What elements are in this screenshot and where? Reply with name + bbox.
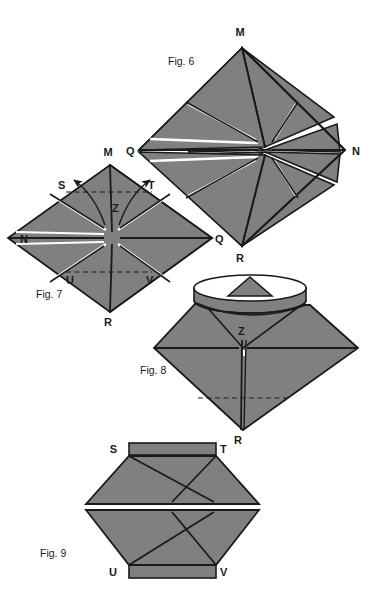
fig7-label-Z: Z <box>112 202 119 214</box>
fig8-crease-vertical <box>241 340 242 430</box>
figure-fig8: Fig. 8 Z R <box>140 275 358 446</box>
fig7-label-V: V <box>146 274 154 286</box>
fig9-label-S: S <box>110 443 117 455</box>
diagram-sheet: Fig. 6 M N Q R <box>0 0 374 604</box>
fig8-caption: Fig. 8 <box>140 364 166 376</box>
fig9-caption: Fig. 9 <box>40 547 66 559</box>
fig7-label-U: U <box>66 274 74 286</box>
fig6-caption: Fig. 6 <box>168 55 194 67</box>
fig6-label-M: M <box>235 26 244 38</box>
fig7-label-N: N <box>20 233 28 245</box>
fig7-label-T: T <box>148 179 155 191</box>
figure-fig9: Fig. 9 S T U V <box>40 443 259 578</box>
figures-svg: Fig. 6 M N Q R <box>0 0 374 604</box>
fig6-label-R: R <box>236 252 244 264</box>
fig8-label-R: R <box>234 434 242 446</box>
fig9-label-U: U <box>109 566 117 578</box>
fig9-label-T: T <box>220 443 227 455</box>
fig6-label-N: N <box>352 145 360 157</box>
fig7-caption: Fig. 7 <box>36 288 62 300</box>
fig9-label-V: V <box>220 566 228 578</box>
fig7-label-M: M <box>103 146 112 158</box>
fig9-top-tab <box>129 443 216 455</box>
fig8-label-Z: Z <box>238 325 245 337</box>
fig7-label-Q: Q <box>215 233 224 245</box>
fig7-label-R: R <box>104 316 112 328</box>
fig6-label-Q: Q <box>126 145 135 157</box>
fig7-label-S: S <box>58 179 65 191</box>
fig8-body <box>154 303 358 430</box>
fig9-bottom-tab <box>129 565 216 578</box>
